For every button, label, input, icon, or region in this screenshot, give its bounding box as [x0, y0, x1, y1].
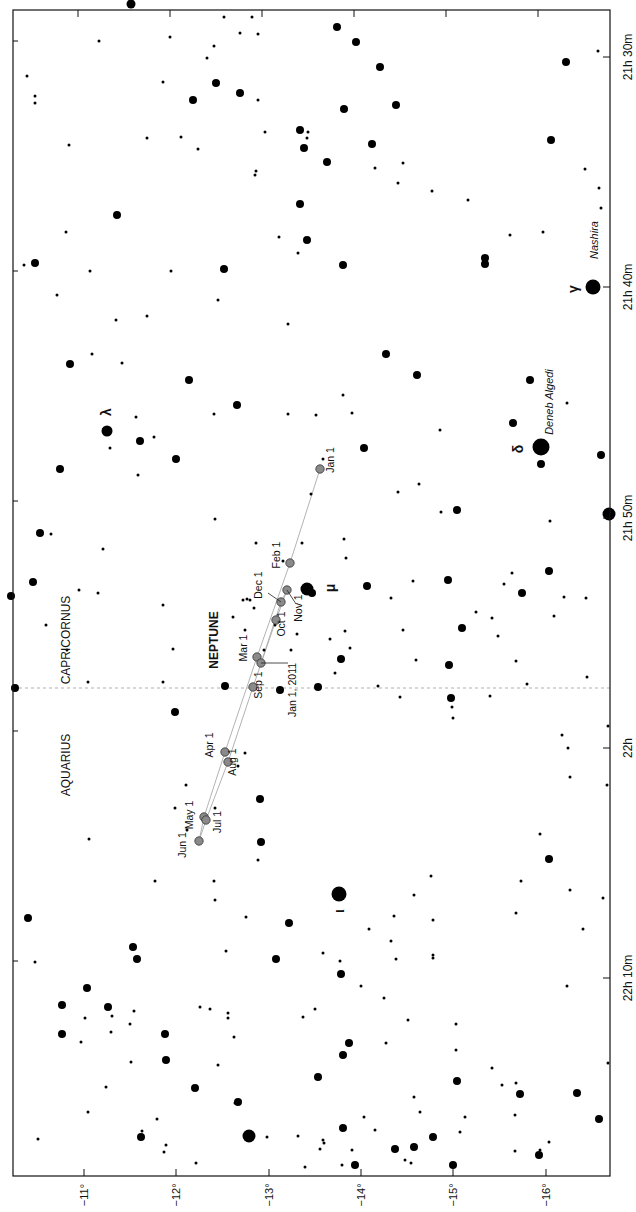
- star: [582, 928, 585, 931]
- star: [511, 572, 514, 575]
- date-label: Aug 1: [226, 748, 238, 776]
- star: [412, 580, 415, 583]
- star: [133, 1010, 136, 1013]
- star: [97, 592, 100, 595]
- star: [225, 950, 228, 953]
- star: [323, 158, 331, 166]
- star: [404, 1159, 407, 1162]
- star: [339, 261, 347, 269]
- star: [390, 940, 393, 943]
- star: [297, 1135, 300, 1138]
- star: [172, 455, 180, 463]
- star: [452, 717, 455, 720]
- star: [397, 182, 400, 185]
- star: [491, 1067, 494, 1070]
- star: [432, 954, 435, 957]
- star: [607, 725, 610, 728]
- star: [491, 617, 494, 620]
- star: [515, 660, 518, 663]
- star: [217, 299, 220, 302]
- star: [162, 81, 165, 84]
- star: [197, 148, 200, 151]
- star: [360, 985, 363, 988]
- neptune-position: [286, 559, 294, 567]
- star: [376, 63, 384, 71]
- star: [199, 1006, 202, 1009]
- star: [395, 958, 398, 961]
- star: [314, 1073, 322, 1081]
- star: [227, 1012, 230, 1015]
- star: [340, 105, 348, 113]
- star: [339, 1124, 347, 1132]
- star: [137, 474, 140, 477]
- star: [301, 542, 304, 545]
- star: [217, 1064, 220, 1067]
- star: [34, 102, 37, 105]
- neptune-position: [195, 837, 203, 845]
- star: [213, 880, 216, 883]
- star: [34, 95, 37, 98]
- star: [563, 596, 566, 599]
- constellation-label: AQUARIUS: [59, 734, 73, 797]
- star: [467, 199, 470, 202]
- star: [598, 187, 601, 190]
- star: [402, 162, 405, 165]
- star: [547, 136, 555, 144]
- star: [233, 1036, 236, 1039]
- star: [84, 1017, 87, 1020]
- star: [345, 557, 348, 560]
- star: [566, 402, 569, 405]
- star: [255, 542, 258, 545]
- star: [567, 747, 570, 750]
- star: [501, 1084, 504, 1087]
- star: [303, 236, 311, 244]
- star: [302, 1016, 305, 1019]
- star: [430, 875, 433, 878]
- star: [515, 912, 518, 915]
- star: [162, 604, 165, 607]
- star: [516, 1090, 524, 1098]
- named-star: [533, 439, 550, 456]
- star: [464, 1116, 467, 1119]
- date-label: Mar 1: [237, 634, 249, 661]
- star: [233, 401, 241, 409]
- star: [453, 506, 461, 514]
- star: [242, 599, 245, 602]
- greek-letter-label: μ: [322, 584, 338, 593]
- star: [263, 649, 266, 652]
- star: [349, 647, 352, 650]
- star: [475, 611, 478, 614]
- star: [26, 75, 29, 78]
- star: [221, 682, 229, 690]
- star: [341, 1164, 344, 1167]
- star: [180, 136, 183, 139]
- star: [595, 1115, 603, 1123]
- star: [562, 58, 570, 66]
- star: [98, 40, 101, 43]
- neptune-positions: Jan 1Feb 1Mar 1Apr 1May 1Jun 1Jul 1Aug 1…: [176, 447, 336, 858]
- star: [56, 465, 64, 473]
- star: [561, 734, 564, 737]
- dec-tick-label: −16°: [540, 1183, 552, 1206]
- star: [153, 436, 156, 439]
- star: [352, 38, 360, 46]
- star: [287, 413, 290, 416]
- date-label: Jan 1, 2011: [286, 663, 298, 717]
- star: [11, 684, 19, 692]
- star: [257, 859, 260, 862]
- star: [390, 597, 393, 600]
- star: [212, 79, 220, 87]
- ra-tick-label: 22h 10m: [621, 955, 635, 1002]
- star: [102, 548, 105, 551]
- star: [447, 694, 455, 702]
- star: [223, 16, 226, 19]
- date-label: May 1: [183, 801, 195, 830]
- star: [382, 350, 390, 358]
- star: [602, 897, 605, 900]
- star: [603, 508, 616, 521]
- star: [314, 1008, 317, 1011]
- greek-letter-label: λ: [98, 408, 114, 416]
- star: [569, 776, 572, 779]
- star: [606, 784, 609, 787]
- star: [569, 889, 572, 892]
